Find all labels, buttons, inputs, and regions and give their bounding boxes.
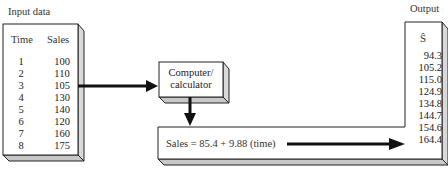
output-cell: 105.2 bbox=[412, 62, 442, 74]
output-title: Output bbox=[410, 3, 439, 14]
sales-cell: 175 bbox=[50, 140, 74, 152]
output-cell: 124.9 bbox=[412, 86, 442, 98]
sales-cell: 105 bbox=[50, 80, 74, 92]
sales-cell: 120 bbox=[50, 116, 74, 128]
time-column: 1 2 3 4 5 6 7 8 bbox=[14, 56, 28, 152]
sales-cell: 130 bbox=[50, 92, 74, 104]
time-cell: 8 bbox=[14, 140, 28, 152]
output-cell: 164.4 bbox=[412, 134, 442, 146]
output-cell: 115.0 bbox=[412, 74, 442, 86]
sales-cell: 100 bbox=[50, 56, 74, 68]
time-cell: 3 bbox=[14, 80, 28, 92]
predicted-sales-header: Ŝ bbox=[420, 32, 426, 44]
time-cell: 4 bbox=[14, 92, 28, 104]
input-data-title: Input data bbox=[8, 6, 50, 17]
output-cell: 144.7 bbox=[412, 110, 442, 122]
sales-column: 100 110 105 130 140 120 160 175 bbox=[50, 56, 74, 152]
time-cell: 2 bbox=[14, 68, 28, 80]
time-cell: 7 bbox=[14, 128, 28, 140]
sales-cell: 110 bbox=[50, 68, 74, 80]
arrow-input-to-calculator bbox=[78, 80, 158, 92]
calculator-label: Computer/ calculator bbox=[159, 67, 223, 91]
time-header: Time bbox=[11, 34, 33, 46]
regression-equation: Sales = 85.4 + 9.88 (time) bbox=[166, 138, 276, 150]
output-cell: 94.3 bbox=[412, 50, 442, 62]
output-cell: 154.6 bbox=[412, 122, 442, 134]
calculator-line-1: Computer/ bbox=[159, 67, 223, 79]
output-cell: 134.8 bbox=[412, 98, 442, 110]
calculator-line-2: calculator bbox=[159, 79, 223, 91]
time-cell: 6 bbox=[14, 116, 28, 128]
output-column: 94.3 105.2 115.0 124.9 134.8 144.7 154.6… bbox=[412, 50, 442, 146]
time-cell: 1 bbox=[14, 56, 28, 68]
sales-header: Sales bbox=[47, 34, 69, 46]
time-cell: 5 bbox=[14, 104, 28, 116]
sales-cell: 140 bbox=[50, 104, 74, 116]
sales-cell: 160 bbox=[50, 128, 74, 140]
